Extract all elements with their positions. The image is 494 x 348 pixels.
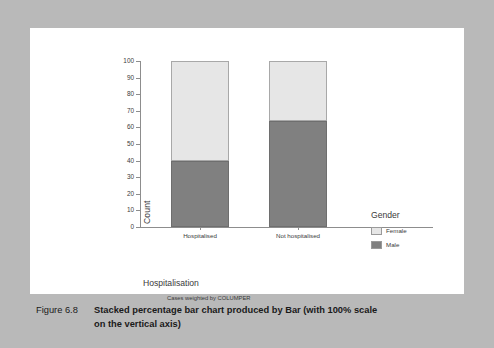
y-axis-tick-mark [136, 144, 140, 145]
figure-caption-number: Figure 6.8 [36, 303, 94, 317]
y-axis-tick-mark [136, 194, 140, 195]
bar-segment-male [171, 161, 229, 227]
y-axis-tick-mark [136, 227, 140, 228]
bar-segment-male [269, 121, 327, 227]
figure-page: Count 0102030405060708090100 Hospitalise… [0, 0, 494, 348]
y-axis-tick-mark [136, 78, 140, 79]
y-axis-line [140, 61, 141, 227]
y-axis-tick-label: 0 [130, 224, 134, 230]
x-axis-title: Hospitalisation [143, 278, 199, 288]
y-axis-tick-label: 90 [127, 74, 134, 80]
figure-caption-line2: on the vertical axis) [94, 317, 466, 331]
legend-title: Gender [371, 210, 407, 220]
plot-area: 0102030405060708090100 HospitalisedNot h… [140, 61, 340, 227]
x-axis-tick-mark [200, 227, 201, 230]
y-axis-tick-label: 60 [127, 124, 134, 130]
chart-footnote: Cases weighted by COLUMPER [167, 295, 250, 301]
x-axis-tick-label: Not hospitalised [276, 233, 320, 239]
y-axis-tick-label: 80 [127, 91, 134, 97]
x-axis-tick-mark [298, 227, 299, 230]
y-axis-tick-mark [136, 61, 140, 62]
legend-label: Male [386, 242, 399, 248]
stacked-bar [269, 61, 327, 227]
y-axis-tick-label: 40 [127, 157, 134, 163]
legend-swatch-female [371, 227, 382, 235]
legend-swatch-male [371, 241, 382, 249]
y-axis-tick-label: 50 [127, 141, 134, 147]
legend-label: Female [386, 228, 407, 234]
bar-segment-female [269, 61, 327, 121]
bar-segment-female [171, 61, 229, 161]
figure-panel: Count 0102030405060708090100 Hospitalise… [30, 28, 464, 294]
y-axis-tick-label: 70 [127, 108, 134, 114]
y-axis-tick-label: 10 [127, 207, 134, 213]
y-axis-tick-mark [136, 177, 140, 178]
legend-items: FemaleMale [371, 227, 407, 249]
figure-caption-line1: Stacked percentage bar chart produced by… [94, 305, 377, 315]
y-axis-tick-mark [136, 127, 140, 128]
y-axis-tick-label: 20 [127, 191, 134, 197]
y-axis-tick-mark [136, 210, 140, 211]
y-axis-tick-label: 30 [127, 174, 134, 180]
legend-item: Female [371, 227, 407, 235]
figure-caption: Figure 6.8Stacked percentage bar chart p… [36, 303, 466, 331]
y-axis-tick-mark [136, 94, 140, 95]
y-axis-tick-mark [136, 111, 140, 112]
y-axis-tick-label: 100 [123, 58, 134, 64]
legend-item: Male [371, 241, 407, 249]
legend: Gender FemaleMale [371, 210, 407, 255]
x-axis-tick-label: Hospitalised [183, 233, 217, 239]
stacked-bar [171, 61, 229, 227]
y-axis-tick-mark [136, 161, 140, 162]
